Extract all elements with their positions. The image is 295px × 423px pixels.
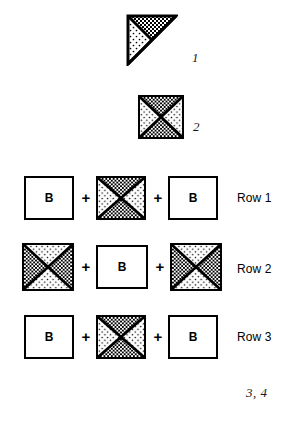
row-2-plus-1: + xyxy=(79,259,93,274)
row-2-left-quadrant-square xyxy=(22,243,74,291)
row-3-label: Row 3 xyxy=(237,330,272,344)
row-3-quadrant-svg xyxy=(98,317,144,357)
row-3-plus-1: + xyxy=(79,329,93,344)
row-2-label: Row 2 xyxy=(237,262,272,276)
row-3-plus-2: + xyxy=(151,329,165,344)
row-1-label: Row 1 xyxy=(237,191,272,205)
row-2-letter: B xyxy=(118,261,127,273)
row-1-left-letter-square: B xyxy=(24,176,74,220)
row-3-right-letter-square: B xyxy=(168,315,218,359)
row-1-plus-2: + xyxy=(151,190,165,205)
row-1-quadrant-square xyxy=(96,176,146,220)
row-1-right-letter-square: B xyxy=(168,176,218,220)
figure-2-quadrant-square xyxy=(138,95,184,139)
row-2-letter-square: B xyxy=(96,245,148,289)
row-3-left-letter-square: B xyxy=(24,315,74,359)
row-1-quadrant-svg xyxy=(98,178,144,218)
figure-sheet: 1 2 B + + B Row 1 xyxy=(0,0,295,423)
row-1-left-letter: B xyxy=(45,192,54,204)
row-2-right-quadrant-svg xyxy=(172,245,220,289)
figure-1-label: 1 xyxy=(192,50,199,66)
footer-figure-label: 3, 4 xyxy=(246,385,268,401)
row-2-right-quadrant-square xyxy=(170,243,222,291)
row-1-plus-1: + xyxy=(79,190,93,205)
figure-2-svg xyxy=(140,97,182,137)
figure-1-svg xyxy=(126,14,178,66)
row-1-right-letter: B xyxy=(189,192,198,204)
figure-2-label: 2 xyxy=(193,119,200,135)
row-3-right-letter: B xyxy=(189,331,198,343)
row-2-plus-2: + xyxy=(153,259,167,274)
figure-1-triangle xyxy=(126,14,178,66)
row-3-left-letter: B xyxy=(45,331,54,343)
row-3-quadrant-square xyxy=(96,315,146,359)
row-2-left-quadrant-svg xyxy=(24,245,72,289)
